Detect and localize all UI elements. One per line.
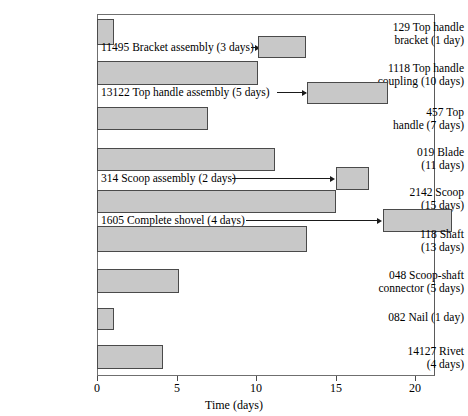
row-label-118: 118 Shaft (13 days) — [372, 228, 468, 253]
annotation-scoop-assembly: 314 Scoop assembly (2 days) — [101, 172, 236, 184]
x-tick-label-20: 20 — [409, 382, 421, 395]
arrow-line-complete-shovel — [246, 220, 378, 221]
x-tick-label-15: 15 — [330, 382, 342, 395]
bar-019-blade — [97, 148, 275, 171]
arrow-head-scoop-assembly — [330, 176, 335, 182]
bar-14127-rivet — [97, 345, 163, 369]
bar-13122-top-handle-assembly — [307, 82, 388, 104]
x-axis-title: Time (days) — [0, 398, 468, 413]
bar-2142-scoop — [97, 190, 336, 213]
row-label-14127: 14127 Rivet (4 days) — [372, 345, 468, 370]
x-tick-label-10: 10 — [250, 382, 262, 395]
x-tick-label-5: 5 — [174, 382, 180, 395]
row-label-457: 457 Top handle (7 days) — [372, 106, 468, 131]
row-label-082: 082 Nail (1 day) — [372, 311, 468, 324]
arrow-head-complete-shovel — [377, 218, 382, 224]
row-label-129: 129 Top handle bracket (1 day) — [372, 21, 468, 46]
bar-082-nail — [97, 308, 114, 330]
bar-048-scoop-shaft-connector — [97, 269, 179, 293]
bar-118-shaft — [97, 226, 307, 252]
bar-314-scoop-assembly — [336, 167, 369, 190]
bar-11495-bracket-assembly — [258, 36, 306, 58]
row-label-048: 048 Scoop-shaft connector (5 days) — [372, 269, 468, 294]
gantt-chart: 129 Top handle bracket (1 day) 11495 Bra… — [0, 0, 468, 416]
row-label-2142: 2142 Scoop (15 days) — [372, 186, 468, 211]
annotation-top-handle-assembly: 13122 Top handle assembly (5 days) — [101, 86, 270, 98]
arrow-line-scoop-assembly — [232, 178, 331, 179]
row-label-019: 019 Blade (11 days) — [372, 146, 468, 171]
annotation-complete-shovel: 1605 Complete shovel (4 days) — [101, 214, 245, 226]
annotation-bracket-assembly: 11495 Bracket assembly (3 days) — [101, 41, 254, 53]
bar-457-top-handle — [97, 107, 208, 130]
bar-1118-top-handle-coupling — [97, 61, 258, 85]
x-tick-label-0: 0 — [94, 382, 100, 395]
